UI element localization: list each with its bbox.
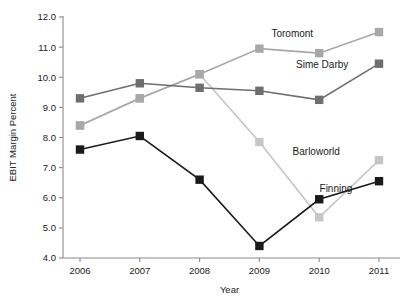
x-tick-label: 2008 [189, 265, 210, 276]
y-tick-label: 5.0 [43, 222, 56, 233]
y-tick-label: 6.0 [43, 192, 56, 203]
data-point-marker[interactable] [255, 138, 263, 146]
data-point-marker[interactable] [315, 213, 323, 221]
x-tick-label: 2006 [69, 265, 90, 276]
x-tick-label: 2009 [249, 265, 270, 276]
x-tick-label: 2007 [129, 265, 150, 276]
y-tick-label: 12.0 [38, 11, 57, 22]
data-point-marker[interactable] [195, 84, 203, 92]
y-tick-label: 7.0 [43, 162, 56, 173]
series-label-finning: Finning [320, 183, 353, 194]
x-tick-label: 2011 [369, 265, 389, 276]
data-point-marker[interactable] [315, 96, 323, 104]
y-axis-title: EBIT Margin Percent [7, 93, 18, 181]
data-point-marker[interactable] [375, 156, 383, 164]
y-tick-label: 8.0 [43, 132, 56, 143]
data-point-marker[interactable] [195, 175, 203, 183]
data-point-marker[interactable] [315, 49, 323, 57]
series-toromont [76, 28, 383, 130]
data-point-marker[interactable] [136, 79, 144, 87]
data-point-marker[interactable] [195, 70, 203, 78]
chart-canvas: 4.05.06.07.08.09.010.011.012.02006200720… [0, 0, 417, 303]
data-point-marker[interactable] [375, 59, 383, 67]
data-point-marker[interactable] [76, 94, 84, 102]
y-tick-label: 4.0 [43, 252, 56, 263]
data-point-marker[interactable] [255, 87, 263, 95]
y-tick-label: 10.0 [38, 72, 57, 83]
series-label-sime-darby: Sime Darby [296, 59, 348, 70]
ebit-margin-line-chart: 4.05.06.07.08.09.010.011.012.02006200720… [0, 0, 417, 303]
data-point-marker[interactable] [76, 121, 84, 129]
y-tick-label: 9.0 [43, 102, 56, 113]
data-point-marker[interactable] [255, 242, 263, 250]
data-point-marker[interactable] [76, 145, 84, 153]
data-point-marker[interactable] [136, 132, 144, 140]
x-axis-title: Year [220, 284, 239, 295]
series-label-barloworld: Barloworld [293, 146, 340, 157]
data-point-marker[interactable] [255, 44, 263, 52]
data-point-marker[interactable] [136, 94, 144, 102]
data-point-marker[interactable] [375, 28, 383, 36]
series-label-toromont: Toromont [271, 28, 313, 39]
x-tick-label: 2010 [309, 265, 330, 276]
y-tick-label: 11.0 [38, 42, 56, 53]
data-point-marker[interactable] [315, 195, 323, 203]
series-line [80, 32, 379, 125]
data-point-marker[interactable] [375, 177, 383, 185]
